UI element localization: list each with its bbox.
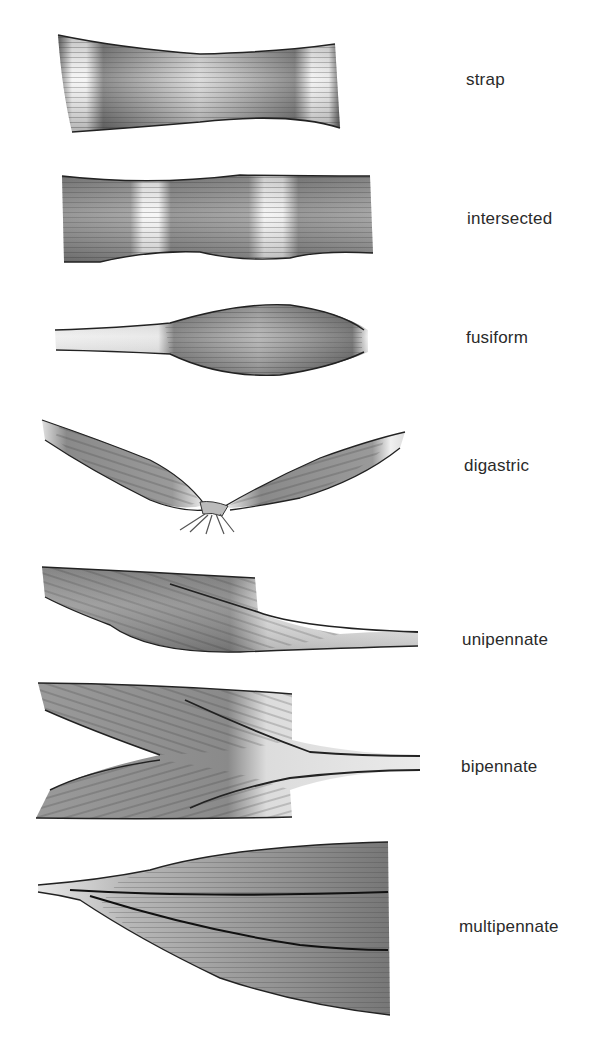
muscle-shapes-diagram — [0, 0, 602, 1053]
intersected-muscle — [62, 175, 373, 262]
multipennate-muscle — [38, 842, 390, 1015]
fusiform-muscle — [55, 305, 368, 376]
label-digastric: digastric — [464, 456, 529, 476]
label-bipennate: bipennate — [461, 757, 537, 777]
unipennate-muscle — [42, 567, 418, 652]
label-strap: strap — [466, 70, 505, 90]
digastric-muscle — [42, 420, 405, 534]
label-fusiform: fusiform — [466, 328, 528, 348]
label-unipennate: unipennate — [462, 630, 548, 650]
strap-muscle — [58, 35, 340, 132]
label-intersected: intersected — [467, 209, 552, 229]
bipennate-muscle — [36, 683, 420, 819]
label-multipennate: multipennate — [459, 917, 559, 937]
